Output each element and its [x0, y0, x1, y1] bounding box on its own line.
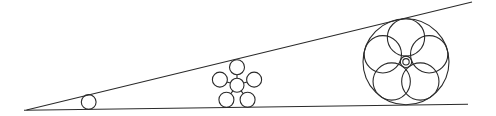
cluster-satellite-circle — [247, 72, 262, 87]
rose-petal-circle — [387, 19, 424, 56]
rose-hub-inner-circle — [403, 59, 409, 65]
cluster-satellite-circle — [240, 92, 255, 107]
cluster-satellite-circle — [230, 60, 245, 75]
diagram-svg — [0, 0, 496, 116]
cluster-satellite-circle — [219, 92, 234, 107]
rose-petal-circle — [373, 63, 410, 100]
rose-petal-circle — [364, 36, 401, 73]
small-circle — [81, 95, 96, 110]
rose-petal-circle — [411, 36, 448, 73]
geometry-diagram — [0, 0, 496, 116]
rose-hub-outer-circle — [400, 56, 411, 67]
rose-petal-circle — [402, 63, 439, 100]
cluster-satellite-circle — [212, 72, 227, 87]
cluster-center-circle — [230, 78, 244, 92]
